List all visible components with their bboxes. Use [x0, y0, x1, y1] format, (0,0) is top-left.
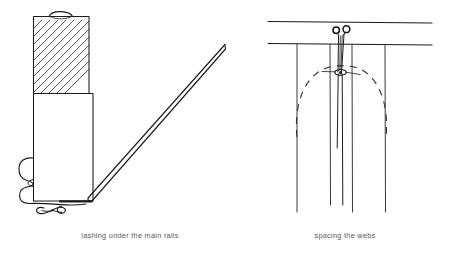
lashing-knot-tail-2: [42, 211, 54, 212]
scissor-ring-right-stem: [344, 32, 345, 35]
scissor-ring-right: [343, 26, 350, 33]
drawing-canvas: lashing under the main rails: [0, 0, 461, 258]
pole-upper-edge: [89, 45, 226, 198]
web-4: [385, 45, 386, 212]
spacing-arc: [296, 66, 386, 137]
lashing-rope-base: [28, 203, 86, 205]
caption-left: lashing under the main rails: [81, 231, 178, 240]
web-3: [352, 44, 353, 212]
scissor-blade-right-lower: [342, 74, 343, 205]
scissor-pivot-dot: [339, 71, 342, 74]
caption-right: spacing the webs: [314, 231, 375, 240]
plain-block: [34, 94, 94, 202]
scissor-arm-inner-left: [340, 36, 341, 70]
upper-main-rail: [268, 22, 432, 24]
panel-right: spacing the webs: [268, 22, 432, 241]
scissor-blade-left: [338, 36, 339, 72]
lower-main-rail: [268, 44, 432, 46]
pivot-tick-right: [346, 72, 360, 74]
scissor-ring-left: [333, 27, 339, 33]
pole-lower-edge: [92, 49, 226, 202]
web-2: [330, 44, 331, 205]
scissor-blade-left-lower: [337, 74, 338, 148]
block-top-ellipse: [49, 12, 73, 17]
pole-tip: [225, 45, 226, 49]
illustration-root: lashing under the main rails: [0, 0, 461, 258]
scissor-ring-left-stem: [338, 33, 339, 36]
panel-left: lashing under the main rails: [0, 12, 226, 240]
